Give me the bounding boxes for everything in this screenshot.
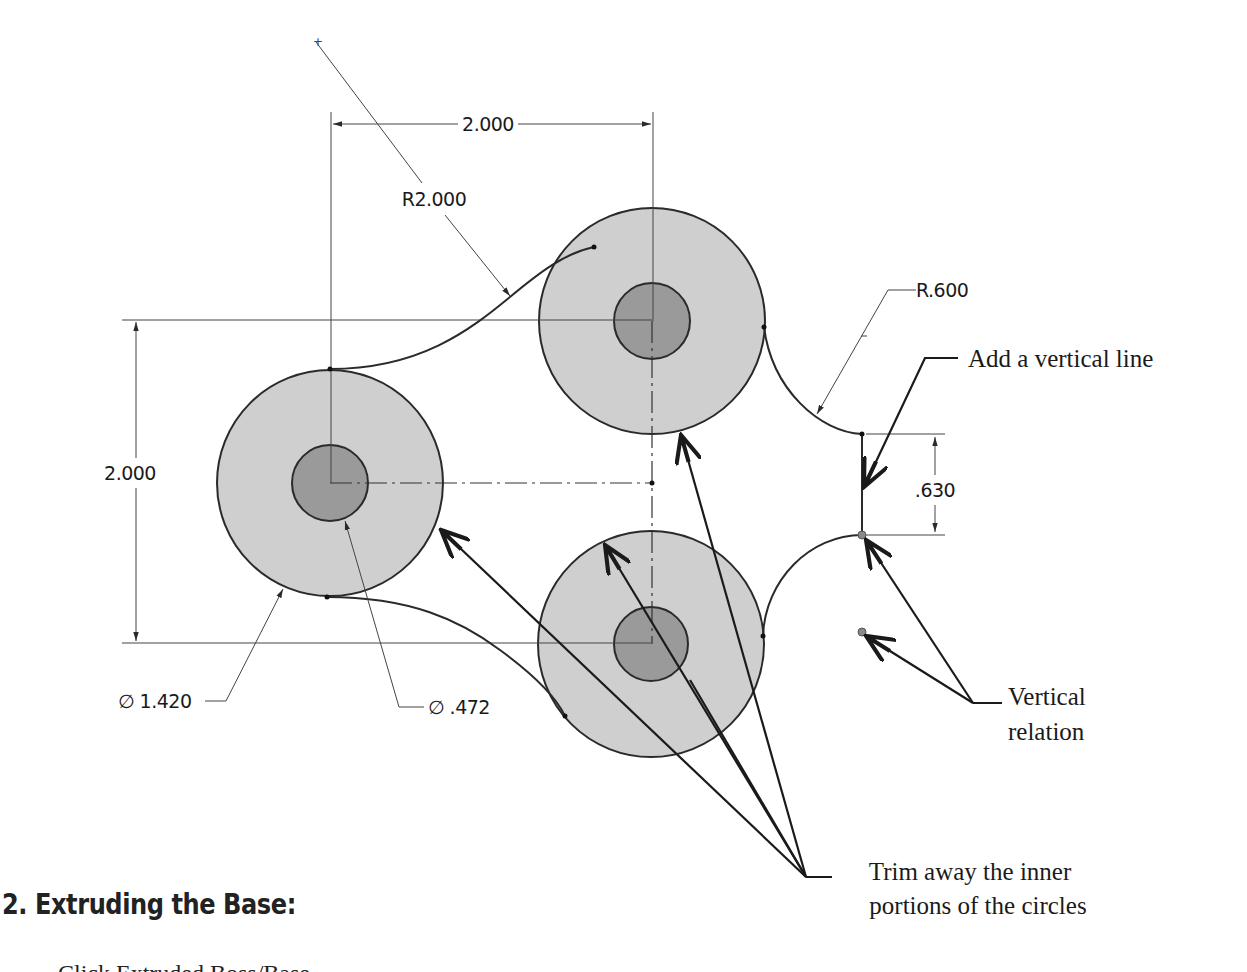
circle-bottom-right <box>538 531 764 757</box>
dim-dia-472-label: ∅ .472 <box>428 696 490 718</box>
dimension-horizontal-2000[interactable]: 2.000 <box>333 113 651 135</box>
dimension-630[interactable]: .630 <box>915 437 955 532</box>
dim-horizontal-label: 2.000 <box>462 113 514 135</box>
dim-630-label: .630 <box>915 479 955 501</box>
callout-vertical-relation: Vertical relation <box>866 540 1086 745</box>
note-vertical-relation-2: relation <box>1008 718 1085 745</box>
dim-vertical-label: 2.000 <box>104 462 156 484</box>
dimension-vertical-2000[interactable]: 2.000 <box>104 322 156 641</box>
extension-lines <box>122 112 945 643</box>
dim-r600-label: R.600 <box>916 279 968 301</box>
note-vertical-relation-1: Vertical <box>1008 683 1086 710</box>
note-trim-1: Trim away the inner <box>869 858 1072 885</box>
callout-add-vertical-line: Add a vertical line <box>864 345 1153 487</box>
dimension-r600[interactable]: R.600 <box>817 279 968 414</box>
relation-point-top <box>858 531 866 539</box>
dimension-r2000[interactable]: + R2.000 <box>313 35 510 296</box>
section-heading: 2. Extruding the Base: <box>2 888 296 921</box>
relation-point-bottom <box>858 628 866 636</box>
section-body-partial: Click Extruded Boss/Base <box>58 958 310 972</box>
dim-dia-1420-label: ∅ 1.420 <box>118 690 191 712</box>
dim-r2000-label: R2.000 <box>402 188 467 210</box>
note-trim-2: portions of the circles <box>869 892 1086 919</box>
sketch-drawing: 2.000 2.000 + R2.000 R.600 .630 ∅ 1.420 … <box>0 0 1247 972</box>
dimension-dia-1420[interactable]: ∅ 1.420 <box>118 589 283 712</box>
callout-trim-away: Trim away the inner portions of the circ… <box>441 435 1087 919</box>
arc-center-mark: + <box>313 35 323 49</box>
note-add-vertical-line: Add a vertical line <box>968 345 1153 372</box>
